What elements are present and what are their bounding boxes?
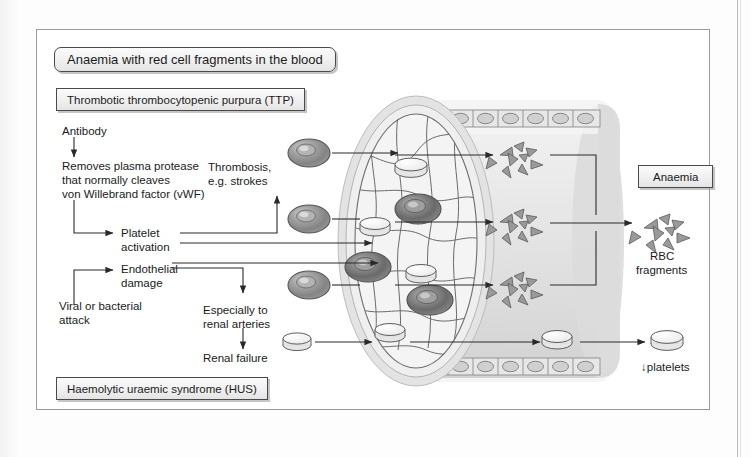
page-edge-outer — [737, 0, 738, 457]
label-thrombosis-line2: e.g. strokes — [208, 174, 267, 189]
label-rbc-line1: RBC — [650, 249, 674, 264]
page-left-shade — [0, 0, 22, 457]
label-removes-line2: that normally cleaves — [62, 173, 170, 188]
ttp-box: Thrombotic thrombocytopenic purpura (TTP… — [56, 88, 305, 111]
label-renal-failure: Renal failure — [203, 351, 268, 366]
label-platelets-down: ↓platelets — [641, 360, 690, 375]
label-viral-line1: Viral or bacterial — [59, 299, 142, 314]
anaemia-box: Anaemia — [638, 165, 713, 188]
hus-box: Haemolytic uraemic syndrome (HUS) — [56, 377, 268, 400]
label-endothelial-line1: Endothelial — [121, 262, 178, 277]
figure-frame — [36, 29, 710, 410]
label-thrombosis-line1: Thrombosis, — [208, 160, 271, 175]
label-platelet-line2: activation — [121, 240, 170, 255]
label-removes-line1: Removes plasma protease — [62, 159, 199, 174]
label-especially-line1: Especially to — [203, 303, 268, 318]
label-antibody: Antibody — [62, 124, 107, 139]
figure-title: Anaemia with red cell fragments in the b… — [54, 47, 336, 72]
label-viral-line2: attack — [59, 313, 90, 328]
label-platelet-line1: Platelet — [121, 226, 159, 241]
scanned-page: Anaemia with red cell fragments in the b… — [0, 0, 751, 457]
label-rbc-line2: fragments — [636, 263, 687, 278]
label-especially-line2: renal arteries — [203, 317, 270, 332]
label-endothelial-line2: damage — [121, 276, 163, 291]
page-edge-inner — [740, 0, 741, 457]
label-removes-line3: von Willebrand factor (vWF) — [62, 187, 205, 202]
